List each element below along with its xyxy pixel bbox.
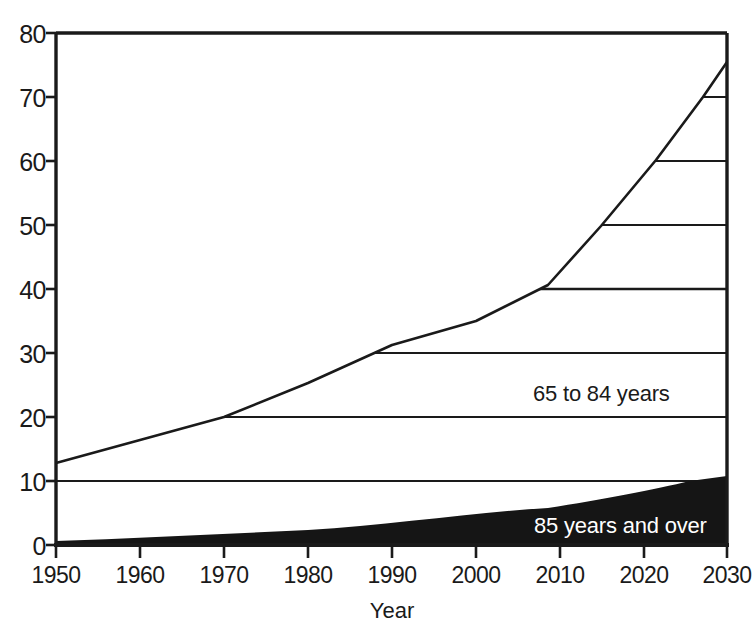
x-axis-label-1970: 1970 [179, 562, 269, 589]
series-annotation-85-years-and-over: 85 years and over [534, 513, 707, 539]
x-axis-label-1990: 1990 [347, 562, 437, 589]
y-axis-label-60: 60 [0, 148, 46, 177]
x-axis-label-2020: 2020 [599, 562, 689, 589]
y-axis-label-80: 80 [0, 20, 46, 49]
x-axis-label-1960: 1960 [95, 562, 185, 589]
y-axis-label-0: 0 [0, 532, 46, 561]
gridlines-group [56, 97, 727, 481]
series-annotation-65-to-84-years: 65 to 84 years [533, 381, 670, 407]
x-axis-title: Year [292, 598, 492, 624]
x-axis-label-2000: 2000 [431, 562, 521, 589]
chart-canvas: 80 70 60 50 40 30 20 10 0 1950 1960 1970… [0, 0, 754, 628]
x-axis-label-1980: 1980 [263, 562, 353, 589]
x-axis-label-2030: 2030 [682, 562, 754, 589]
y-axis-label-10: 10 [0, 468, 46, 497]
x-axis-label-1950: 1950 [11, 562, 101, 589]
y-axis-label-20: 20 [0, 404, 46, 433]
y-axis-label-70: 70 [0, 84, 46, 113]
x-axis-label-2010: 2010 [515, 562, 605, 589]
y-axis-label-30: 30 [0, 340, 46, 369]
y-axis-label-40: 40 [0, 276, 46, 305]
y-axis-label-50: 50 [0, 212, 46, 241]
